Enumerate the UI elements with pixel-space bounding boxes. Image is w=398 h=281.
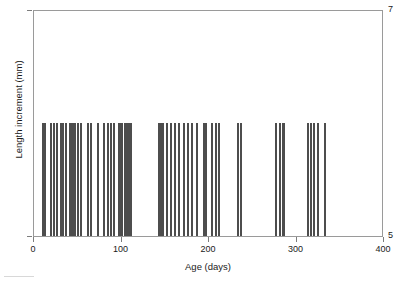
x-tick-mark	[121, 237, 122, 242]
x-axis-title: Age (days)	[33, 261, 383, 272]
y-axis-title: Length increment (mm)	[13, 40, 24, 180]
data-bar	[130, 123, 132, 237]
data-bar	[313, 123, 315, 237]
data-bar	[191, 123, 193, 237]
data-bar	[275, 123, 277, 237]
data-bar	[90, 123, 92, 237]
data-bar	[178, 123, 180, 237]
data-bar	[205, 123, 207, 237]
x-tick-mark	[296, 237, 297, 242]
x-tick-label: 400	[363, 244, 398, 254]
data-bar	[218, 123, 220, 237]
x-tick-label: 300	[276, 244, 316, 254]
data-bar	[166, 123, 168, 237]
data-bar	[162, 123, 164, 237]
data-bar	[97, 123, 99, 237]
data-bar	[103, 123, 105, 237]
data-bar	[187, 123, 189, 237]
data-bar	[113, 123, 115, 237]
data-bar	[240, 123, 242, 237]
data-bar	[310, 123, 312, 237]
data-bar	[50, 123, 52, 237]
data-bar	[44, 123, 46, 237]
y-tick-mark-bottom	[27, 236, 32, 237]
x-tick-label: 200	[188, 244, 228, 254]
data-bar	[80, 123, 82, 237]
data-bar	[183, 123, 185, 237]
x-tick-mark	[208, 237, 209, 242]
data-bar	[174, 123, 176, 237]
x-tick-label: 0	[13, 244, 53, 254]
data-bar	[65, 123, 67, 237]
data-bar	[324, 123, 326, 237]
x-tick-mark	[33, 237, 34, 242]
data-bar	[196, 123, 198, 237]
data-bar	[211, 123, 213, 237]
data-bar	[317, 123, 319, 237]
data-bar	[170, 123, 172, 237]
data-bar	[237, 123, 239, 237]
plot-area	[33, 10, 383, 237]
scan-artifact-line	[4, 276, 34, 277]
data-bar	[283, 123, 285, 237]
data-bar	[77, 123, 79, 237]
x-tick-label: 100	[101, 244, 141, 254]
y-tick-mark-top	[27, 10, 32, 11]
data-bar	[56, 123, 58, 237]
x-tick-mark	[383, 237, 384, 242]
